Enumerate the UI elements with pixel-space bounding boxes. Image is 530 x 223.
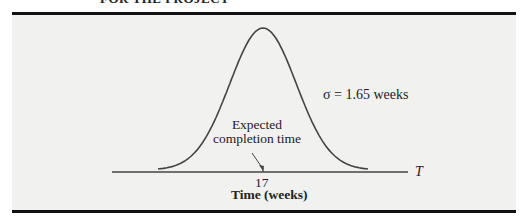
x-axis-label: Time (weeks) (231, 187, 308, 203)
annotation-line-1: Expected (207, 118, 307, 132)
axis-variable-label: T (415, 164, 423, 180)
expected-completion-annotation: Expected completion time (207, 118, 307, 146)
annotation-line-2: completion time (207, 132, 307, 146)
sigma-label: σ = 1.65 weeks (323, 87, 408, 103)
